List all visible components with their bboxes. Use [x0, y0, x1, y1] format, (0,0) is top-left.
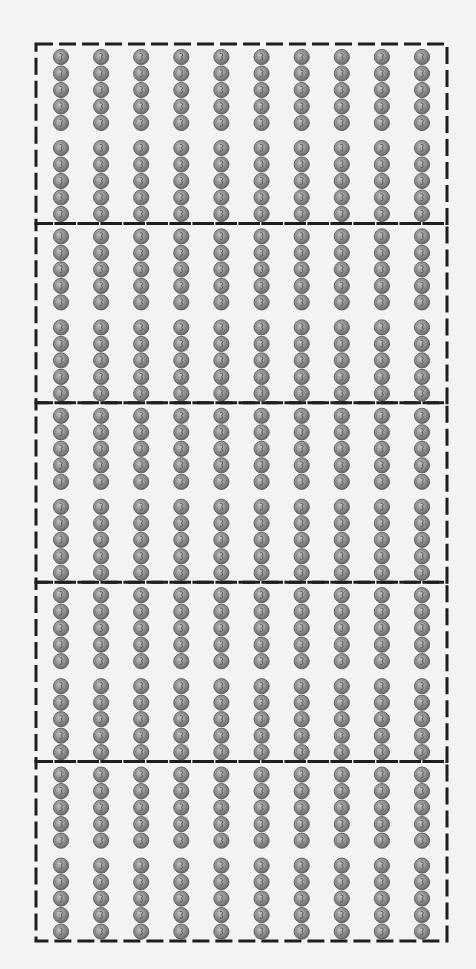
silver-coin-icon — [334, 173, 349, 188]
silver-coin-icon — [174, 549, 189, 564]
silver-coin-icon — [294, 604, 309, 619]
silver-coin-icon — [414, 712, 429, 727]
silver-coin-icon — [254, 800, 269, 815]
silver-coin-icon — [294, 712, 309, 727]
silver-coin-icon — [174, 115, 189, 130]
silver-coin-icon — [374, 369, 389, 384]
silver-coin-icon — [214, 229, 229, 244]
silver-coin-icon — [134, 369, 149, 384]
silver-coin-icon — [214, 458, 229, 473]
coin-column — [374, 408, 389, 580]
silver-coin-icon — [374, 66, 389, 81]
silver-coin-icon — [134, 66, 149, 81]
silver-coin-icon — [94, 278, 109, 293]
coin-column — [174, 767, 189, 939]
silver-coin-icon — [174, 565, 189, 580]
coin-column — [134, 49, 149, 221]
silver-coin-icon — [374, 588, 389, 603]
silver-coin-icon — [374, 499, 389, 514]
silver-coin-icon — [374, 728, 389, 743]
silver-coin-icon — [214, 157, 229, 172]
coin-column — [53, 767, 68, 939]
silver-coin-icon — [414, 386, 429, 401]
coin-column — [53, 588, 68, 760]
silver-coin-icon — [53, 115, 68, 130]
silver-coin-icon — [254, 712, 269, 727]
coin-column — [254, 588, 269, 760]
silver-coin-icon — [214, 924, 229, 939]
silver-coin-icon — [374, 353, 389, 368]
silver-coin-icon — [214, 637, 229, 652]
silver-coin-icon — [294, 679, 309, 694]
silver-coin-icon — [414, 278, 429, 293]
silver-coin-icon — [254, 679, 269, 694]
silver-coin-icon — [214, 66, 229, 81]
silver-coin-icon — [134, 458, 149, 473]
silver-coin-icon — [94, 336, 109, 351]
silver-coin-icon — [134, 441, 149, 456]
silver-coin-icon — [414, 588, 429, 603]
coin-column — [414, 588, 429, 760]
silver-coin-icon — [214, 441, 229, 456]
silver-coin-icon — [254, 458, 269, 473]
silver-coin-icon — [134, 245, 149, 260]
silver-coin-icon — [174, 336, 189, 351]
silver-coin-icon — [294, 229, 309, 244]
coin-column — [214, 49, 229, 221]
silver-coin-icon — [53, 190, 68, 205]
silver-coin-icon — [174, 173, 189, 188]
silver-coin-icon — [134, 908, 149, 923]
silver-coin-icon — [134, 408, 149, 423]
coin-column — [174, 408, 189, 580]
silver-coin-icon — [53, 474, 68, 489]
silver-coin-icon — [294, 408, 309, 423]
silver-coin-icon — [174, 532, 189, 547]
silver-coin-icon — [134, 49, 149, 64]
silver-coin-icon — [414, 621, 429, 636]
silver-coin-icon — [134, 679, 149, 694]
silver-coin-icon — [294, 157, 309, 172]
silver-coin-icon — [94, 695, 109, 710]
silver-coin-icon — [294, 728, 309, 743]
silver-coin-icon — [214, 425, 229, 440]
silver-coin-icon — [53, 745, 68, 760]
silver-coin-icon — [374, 800, 389, 815]
silver-coin-icon — [134, 637, 149, 652]
silver-coin-icon — [53, 425, 68, 440]
silver-coin-icon — [94, 441, 109, 456]
silver-coin-icon — [334, 190, 349, 205]
silver-coin-icon — [334, 549, 349, 564]
silver-coin-icon — [254, 908, 269, 923]
silver-coin-icon — [374, 549, 389, 564]
silver-coin-icon — [294, 425, 309, 440]
silver-coin-icon — [214, 817, 229, 832]
silver-coin-icon — [414, 190, 429, 205]
coin-groups — [36, 44, 447, 941]
silver-coin-icon — [214, 190, 229, 205]
silver-coin-icon — [294, 875, 309, 890]
silver-coin-icon — [53, 728, 68, 743]
silver-coin-icon — [374, 278, 389, 293]
silver-coin-icon — [294, 278, 309, 293]
silver-coin-icon — [174, 833, 189, 848]
silver-coin-icon — [174, 425, 189, 440]
silver-coin-icon — [53, 206, 68, 221]
silver-coin-icon — [414, 206, 429, 221]
silver-coin-icon — [414, 262, 429, 277]
silver-coin-icon — [53, 833, 68, 848]
silver-coin-icon — [53, 99, 68, 114]
silver-coin-icon — [374, 875, 389, 890]
silver-coin-icon — [334, 891, 349, 906]
silver-coin-icon — [414, 784, 429, 799]
silver-coin-icon — [174, 745, 189, 760]
silver-coin-icon — [134, 565, 149, 580]
silver-coin-icon — [214, 82, 229, 97]
silver-coin-icon — [174, 278, 189, 293]
silver-coin-icon — [53, 532, 68, 547]
silver-coin-icon — [294, 245, 309, 260]
silver-coin-icon — [254, 278, 269, 293]
silver-coin-icon — [294, 474, 309, 489]
silver-coin-icon — [254, 229, 269, 244]
silver-coin-icon — [214, 621, 229, 636]
silver-coin-icon — [294, 588, 309, 603]
